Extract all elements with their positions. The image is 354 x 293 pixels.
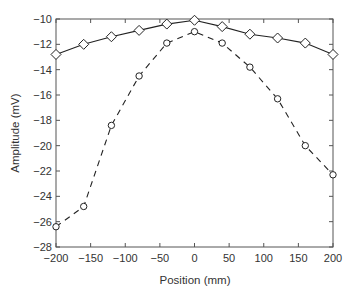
x-axis-label: Position (mm) (160, 274, 231, 286)
y-tick-label: −24 (33, 190, 52, 202)
circle-marker (136, 73, 142, 79)
diamond-marker (162, 19, 172, 29)
series-diamond-solid (51, 15, 338, 59)
y-tick-label: −16 (33, 89, 52, 101)
x-tick-label: −100 (113, 252, 138, 264)
diamond-marker (134, 25, 144, 35)
x-tick-label: −50 (151, 252, 170, 264)
series-group (51, 15, 338, 230)
circle-marker (53, 224, 59, 230)
circle-marker (191, 28, 197, 34)
y-tick-label: −26 (33, 216, 52, 228)
x-tick-label: −150 (78, 252, 103, 264)
x-tick-label: 150 (289, 252, 307, 264)
y-axis-label: Amplitude (mV) (9, 93, 21, 172)
y-tick-label: −18 (33, 114, 52, 126)
x-axis: −200−150−100−50050100150200 (44, 19, 343, 264)
y-tick-label: −14 (33, 64, 52, 76)
y-tick-label: −20 (33, 140, 52, 152)
diamond-marker (328, 49, 338, 59)
series-circle-dashed (53, 28, 336, 229)
diamond-marker (300, 38, 310, 48)
circle-marker (81, 203, 87, 209)
y-tick-label: −10 (33, 13, 52, 25)
circle-marker (219, 40, 225, 46)
x-tick-label: 0 (191, 252, 197, 264)
y-tick-label: −12 (33, 38, 52, 50)
diamond-marker (51, 49, 61, 59)
y-tick-label: −22 (33, 165, 52, 177)
diamond-marker (273, 33, 283, 43)
plot-border (56, 19, 333, 247)
y-axis: −10−12−14−16−18−20−22−24−26−28 (33, 13, 333, 253)
diamond-marker (245, 29, 255, 39)
diamond-marker (106, 32, 116, 42)
plot-area (56, 19, 333, 247)
diamond-marker (79, 39, 89, 49)
series-line (56, 32, 333, 227)
x-tick-label: 100 (255, 252, 273, 264)
amplitude-position-chart: −10−12−14−16−18−20−22−24−26−28 −200−150−… (0, 0, 354, 293)
diamond-marker (190, 15, 200, 25)
circle-marker (274, 96, 280, 102)
circle-marker (330, 172, 336, 178)
circle-marker (302, 142, 308, 148)
x-tick-label: 50 (223, 252, 235, 264)
x-tick-label: −200 (44, 252, 69, 264)
circle-marker (108, 122, 114, 128)
circle-marker (247, 64, 253, 70)
diamond-marker (217, 22, 227, 32)
circle-marker (164, 40, 170, 46)
x-tick-label: 200 (324, 252, 342, 264)
